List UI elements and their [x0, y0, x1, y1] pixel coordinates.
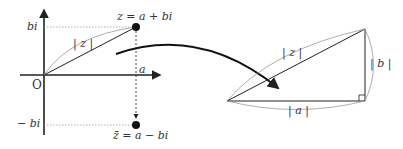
- right-triangle: [227, 29, 365, 101]
- label-modulus: | z |: [73, 38, 93, 49]
- label-origin: O: [32, 79, 42, 91]
- label-vertical: | b |: [370, 58, 391, 69]
- label-hypotenuse: | z |: [282, 47, 302, 58]
- point-conjugate: [132, 121, 140, 129]
- label-neg-bi: − bi: [17, 118, 40, 129]
- point-z: [132, 23, 140, 31]
- diagram-graphics: [0, 0, 403, 149]
- complex-conjugate-diagram: bi − bi a O | z | z = a + bi z̄ = a − bi…: [0, 0, 403, 149]
- label-point-z: z = a + bi: [117, 11, 172, 22]
- label-bi: bi: [27, 21, 38, 32]
- label-point-conjugate: z̄ = a − bi: [113, 130, 168, 141]
- label-base: | a |: [288, 105, 309, 116]
- label-a: a: [139, 64, 146, 75]
